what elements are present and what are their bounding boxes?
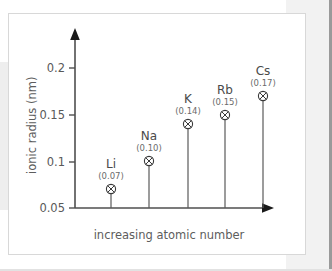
y-axis-title: ionic radius (nm): [25, 77, 39, 174]
y-tick-label-3: 0.05: [39, 201, 65, 215]
data-point-group[interactable]: Li (0.07): [98, 157, 124, 208]
y-tick-label-0: 0.2: [47, 61, 65, 75]
data-point-group[interactable]: Rb (0.15): [212, 83, 238, 208]
y-tick-label-2: 0.1: [47, 155, 65, 169]
data-point-group[interactable]: Na (0.10): [136, 129, 162, 208]
data-point-label: Cs: [256, 64, 271, 78]
x-axis-title: increasing atomic number: [94, 228, 245, 242]
data-point-label: Li: [106, 157, 116, 171]
data-point-group[interactable]: K (0.14): [175, 92, 201, 208]
y-tick-label-1: 0.15: [39, 108, 65, 122]
y-axis-arrow-icon: [70, 28, 80, 40]
x-axis-arrow-icon: [262, 203, 274, 213]
y-axis-ticks: [69, 68, 75, 208]
data-point-label: K: [184, 92, 193, 106]
data-point-value: (0.10): [136, 143, 162, 153]
data-point-value: (0.07): [98, 171, 124, 181]
data-point-value: (0.15): [212, 97, 238, 107]
data-point-value: (0.17): [250, 78, 276, 88]
data-point-label: Na: [141, 129, 157, 143]
data-point-label: Rb: [217, 83, 233, 97]
ionic-radius-scatter-chart: 0.2 0.15 0.1 0.05 ionic radius (nm) incr…: [9, 14, 307, 256]
chart-figure-card: 0.2 0.15 0.1 0.05 ionic radius (nm) incr…: [8, 13, 306, 255]
data-point-value: (0.14): [175, 106, 201, 116]
data-point-group[interactable]: Cs (0.17): [250, 64, 276, 208]
